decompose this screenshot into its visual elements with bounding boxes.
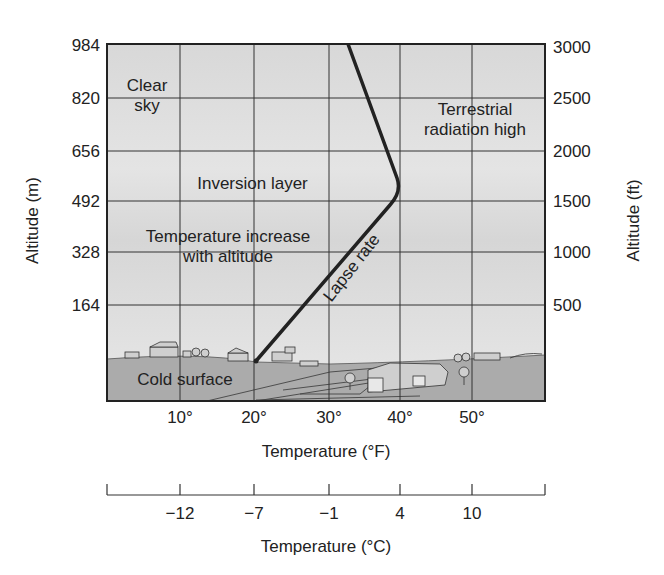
y-axis-title-m: Altitude (m)	[24, 166, 41, 276]
x-axis-title-c: Temperature (°C)	[251, 538, 401, 555]
annotation-cold-surface: Cold surface	[120, 370, 250, 390]
x-axis-title-f: Temperature (°F)	[256, 443, 396, 460]
x2-tick-10: 10	[442, 505, 502, 522]
annotation-terrestrial-line2: radiation high	[405, 120, 545, 140]
x-tick-10f: 10°	[150, 409, 210, 426]
annotation-clear-sky-line2: sky	[112, 96, 182, 116]
celsius-axis	[107, 484, 545, 495]
annotation-temperature-increase: Temperature increase with altitude	[118, 227, 338, 267]
y-tick-328: 328	[40, 244, 100, 261]
annotation-terrestrial-line1: Terrestrial	[405, 100, 545, 120]
y-tick-656: 656	[40, 143, 100, 160]
x2-tick-4: 4	[370, 505, 430, 522]
annotation-clear-sky-line1: Clear	[112, 76, 182, 96]
y-tick-164: 164	[40, 297, 100, 314]
x2-tick-neg12: −12	[150, 505, 210, 522]
annotation-temp-inc-line2: with altitude	[118, 247, 338, 267]
y-tick-492: 492	[40, 193, 100, 210]
x2-tick-neg1: −1	[299, 505, 359, 522]
y2-tick-1000: 1000	[553, 244, 591, 261]
y2-tick-1500: 1500	[553, 193, 591, 210]
x2-tick-neg7: −7	[224, 505, 284, 522]
x-tick-30f: 30°	[299, 409, 359, 426]
y-tick-984: 984	[40, 37, 100, 54]
y2-tick-500: 500	[553, 297, 581, 314]
x-tick-50f: 50°	[442, 409, 502, 426]
annotation-clear-sky: Clear sky	[112, 76, 182, 116]
x-tick-20f: 20°	[224, 409, 284, 426]
y2-tick-3000: 3000	[553, 39, 591, 56]
y-axis-title-ft: Altitude (ft)	[625, 166, 642, 276]
annotation-terrestrial-radiation: Terrestrial radiation high	[405, 100, 545, 140]
annotation-temp-inc-line1: Temperature increase	[118, 227, 338, 247]
y2-tick-2000: 2000	[553, 143, 591, 160]
y2-tick-2500: 2500	[553, 90, 591, 107]
annotation-inversion-layer: Inversion layer	[180, 174, 325, 194]
surface-point	[254, 359, 259, 364]
x-tick-40f: 40°	[370, 409, 430, 426]
y-tick-820: 820	[40, 90, 100, 107]
